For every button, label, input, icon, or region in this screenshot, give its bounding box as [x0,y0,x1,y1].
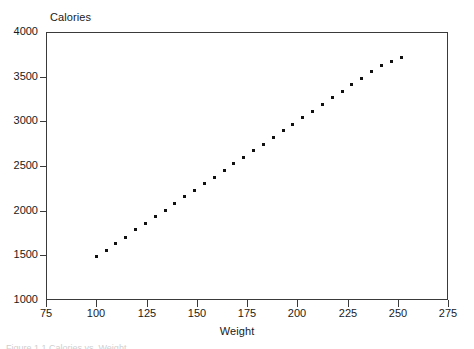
x-axis-title: Weight [0,325,474,338]
x-tick-label: 150 [177,308,217,319]
data-point [154,215,157,218]
x-tick-label: 75 [26,308,66,319]
data-point [223,169,226,172]
data-point [183,195,186,198]
y-tick-label-wrap: 3500 [0,71,38,82]
data-point [360,77,363,80]
scatter-plot-figure: Calories Weight 100015002000250030003500… [0,0,474,349]
data-point [173,202,176,205]
data-point [213,176,216,179]
x-tick-mark [147,300,148,307]
x-tick-label: 225 [328,308,368,319]
data-point [114,242,117,245]
data-point [400,56,403,59]
data-point [390,60,393,63]
data-point [203,182,206,185]
x-tick-mark [448,300,449,307]
y-tick-label: 4000 [0,26,38,37]
y-tick-label: 3500 [0,71,38,82]
x-tick-mark [398,300,399,307]
y-tick-mark [40,255,47,256]
y-tick-label-wrap: 3000 [0,115,38,126]
x-tick-mark [247,300,248,307]
data-point [350,83,353,86]
data-point [164,209,167,212]
x-tick-label: 175 [227,308,267,319]
x-tick-mark [348,300,349,307]
y-tick-mark [40,121,47,122]
y-tick-label-wrap: 4000 [0,26,38,37]
data-point [124,236,127,239]
data-point [321,103,324,106]
x-tick-label: 250 [378,308,418,319]
data-point [341,90,344,93]
data-point [105,249,108,252]
y-tick-label: 1000 [0,294,38,305]
x-tick-label: 100 [76,308,116,319]
data-point [380,64,383,67]
data-point [134,228,137,231]
x-tick-mark [46,300,47,307]
x-tick-mark [197,300,198,307]
x-tick-label: 200 [277,308,317,319]
y-tick-label-wrap: 1500 [0,249,38,260]
y-tick-label: 3000 [0,115,38,126]
data-point [144,222,147,225]
data-point [242,156,245,159]
x-tick-label: 125 [127,308,167,319]
data-point [232,162,235,165]
data-point [301,116,304,119]
data-point [291,123,294,126]
y-tick-mark [40,166,47,167]
plot-frame [46,32,448,300]
data-point [95,255,98,258]
x-tick-label: 275 [428,308,468,319]
figure-caption-clipped: Figure 1.1 Calories vs. Weight [6,343,236,349]
data-point [311,110,314,113]
data-point [331,96,334,99]
data-point [272,136,275,139]
data-point [370,70,373,73]
data-point [252,149,255,152]
x-tick-mark [96,300,97,307]
y-axis-title: Calories [50,11,91,24]
data-point [282,129,285,132]
y-tick-label: 1500 [0,249,38,260]
y-tick-label-wrap: 2500 [0,160,38,171]
data-point [193,189,196,192]
y-tick-label-wrap: 1000 [0,294,38,305]
y-tick-label: 2500 [0,160,38,171]
x-tick-mark [297,300,298,307]
y-tick-mark [40,77,47,78]
y-tick-label: 2000 [0,205,38,216]
y-tick-label-wrap: 2000 [0,205,38,216]
data-point [262,143,265,146]
y-tick-mark [40,211,47,212]
